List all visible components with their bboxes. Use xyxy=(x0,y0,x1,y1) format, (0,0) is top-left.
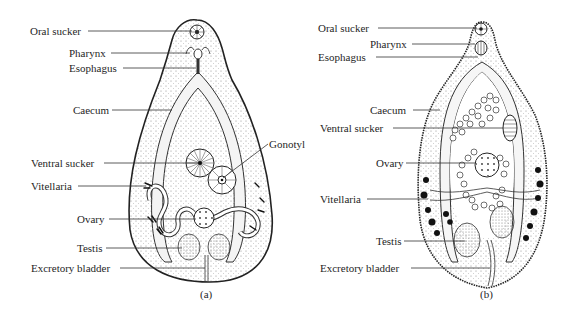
label-vitellaria-b: Vitellaria xyxy=(320,193,361,205)
label-ovary-a: Ovary xyxy=(77,213,105,225)
label-caecum-a: Caecum xyxy=(73,104,109,116)
label-esophagus-b: Esophagus xyxy=(318,51,366,63)
label-gonotyl-a: Gonotyl xyxy=(269,138,305,150)
label-ovary-b: Ovary xyxy=(376,157,404,169)
caption-b: (b) xyxy=(480,288,493,300)
label-vitellaria-a: Vitellaria xyxy=(31,180,72,192)
label-oral-sucker-b: Oral sucker xyxy=(318,22,369,34)
label-pharynx-a: Pharynx xyxy=(69,47,106,59)
label-oral-sucker-a: Oral sucker xyxy=(30,25,81,37)
caption-a: (a) xyxy=(200,288,212,300)
label-caecum-b: Caecum xyxy=(370,104,406,116)
panel-a-specimen xyxy=(78,20,272,282)
label-testis-a: Testis xyxy=(77,242,103,254)
label-esophagus-a: Esophagus xyxy=(69,62,117,74)
label-pharynx-b: Pharynx xyxy=(370,38,407,50)
label-ventral-sucker-a: Ventral sucker xyxy=(31,157,94,169)
label-excretory-bladder-a: Excretory bladder xyxy=(31,262,110,274)
panel-b-specimen xyxy=(367,22,547,288)
label-ventral-sucker-b: Ventral sucker xyxy=(320,122,383,134)
label-excretory-bladder-b: Excretory bladder xyxy=(320,262,399,274)
label-testis-b: Testis xyxy=(376,235,402,247)
